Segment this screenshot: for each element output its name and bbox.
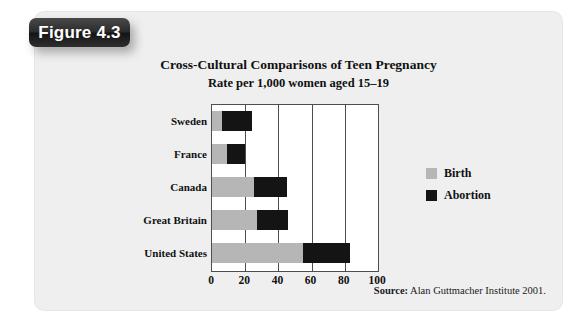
legend-item-abortion: Abortion [426,188,491,203]
bar-row [212,144,245,164]
chart-legend: Birth Abortion [426,166,491,210]
plot-wrap: SwedenFranceCanadaGreat BritainUnited St… [35,12,562,310]
legend-item-birth: Birth [426,166,491,181]
legend-swatch-birth [426,168,437,179]
bar-row [212,177,287,197]
legend-swatch-abortion [426,190,437,201]
category-label-france: France [174,148,207,160]
figure-number-label: Figure 4.3 [38,24,120,41]
figure-number-badge: Figure 4.3 [29,18,130,47]
source-label: Source: [374,285,408,296]
legend-label-birth: Birth [444,166,471,181]
legend-label-abortion: Abortion [444,188,491,203]
bar-segment-abortion [257,210,289,230]
bar-segment-abortion [227,144,245,164]
bar-row [212,243,350,263]
bar-row [212,210,288,230]
bar-segment-abortion [222,111,252,131]
category-label-united-states: United States [144,247,207,259]
bar-segment-birth [212,111,222,131]
source-text: Alan Guttmacher Institute 2001. [410,285,546,296]
bar-segment-birth [212,210,257,230]
bar-segment-birth [212,144,227,164]
source-line: Source: Alan Guttmacher Institute 2001. [374,285,546,296]
bar-segment-birth [212,243,303,263]
bar-segment-abortion [254,177,287,197]
bar-segment-birth [212,177,254,197]
figure-panel: Cross-Cultural Comparisons of Teen Pregn… [35,12,562,310]
category-label-sweden: Sweden [171,115,207,127]
bar-segment-abortion [303,243,349,263]
category-label-great-britain: Great Britain [143,214,207,226]
category-label-canada: Canada [170,181,207,193]
bar-row [212,111,252,131]
